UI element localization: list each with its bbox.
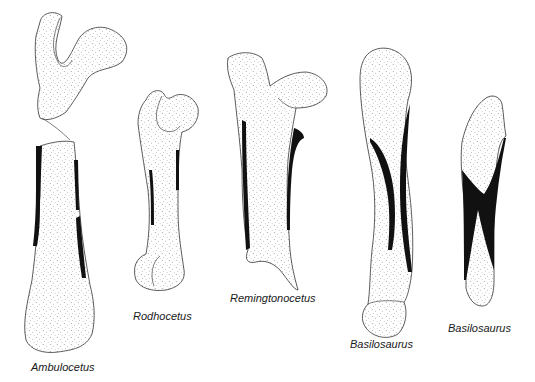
bone-ambulocetus	[25, 13, 127, 353]
bone-basilosaurus-small	[461, 96, 506, 306]
label-remingtonocetus: Remingtonocetus	[230, 292, 316, 304]
label-ambulocetus: Ambulocetus	[31, 361, 95, 373]
remingtonocetus-outline	[227, 53, 327, 290]
rodhocetus-outline	[134, 91, 198, 291]
label-basilosaurus-large: Basilosaurus	[350, 338, 413, 350]
ambulocetus-shaft	[25, 141, 94, 352]
label-rodhocetus: Rodhocetus	[133, 310, 192, 322]
label-basilosaurus-small: Basilosaurus	[448, 322, 511, 334]
rodhocetus-cortical-right	[176, 150, 179, 190]
bone-remingtonocetus	[227, 53, 327, 290]
bone-basilosaurus-large	[360, 48, 413, 337]
bone-rodhocetus	[134, 91, 198, 291]
ambulocetus-proximal-fragment	[35, 13, 127, 120]
